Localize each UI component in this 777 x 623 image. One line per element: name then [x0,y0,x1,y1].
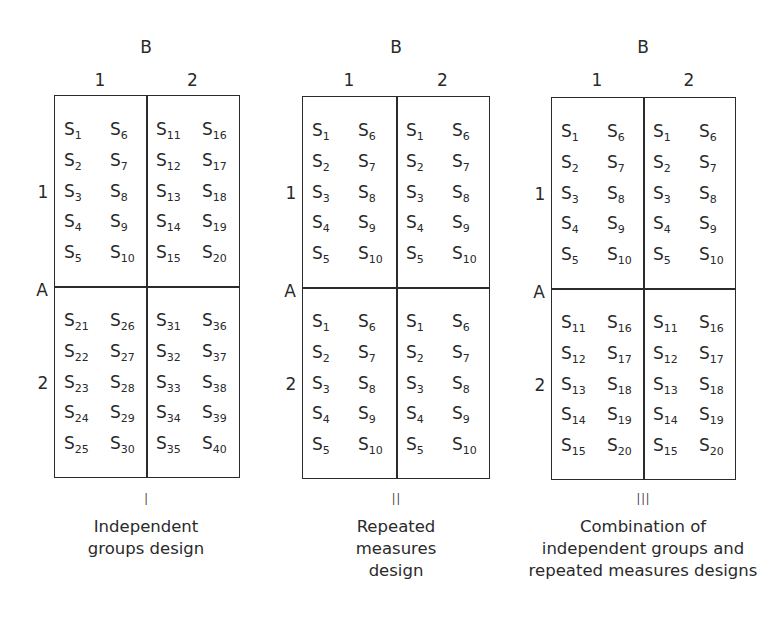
subject-entry: S6 [358,313,376,333]
subject-entry: S19 [202,213,227,233]
subject-entry: S9 [452,214,470,234]
subject-entry: S7 [607,154,625,174]
design-numeral: I [144,492,149,508]
factor-b-label: B [390,39,402,56]
subject-entry: S22 [64,343,89,363]
subject-entry: S17 [607,345,632,365]
subject-entry: S1 [561,123,579,143]
subject-entry: S6 [607,123,625,143]
row-divider [302,287,490,289]
subject-entry: S13 [561,376,586,396]
subject-entry: S11 [561,314,586,334]
subject-entry: S39 [202,404,227,424]
subject-entry: S15 [156,244,181,264]
subject-entry: S3 [561,185,579,205]
subject-entry: S10 [358,436,383,456]
subject-entry: S5 [64,244,82,264]
subject-entry: S24 [64,404,89,424]
subject-entry: S7 [358,153,376,173]
subject-entry: S7 [452,344,470,364]
subject-entry: S16 [607,314,632,334]
subject-entry: S14 [653,406,678,426]
subject-entry: S7 [699,154,717,174]
subject-entry: S19 [607,406,632,426]
subject-entry: S12 [156,152,181,172]
subject-entry: S3 [312,184,330,204]
subject-entry: S7 [358,344,376,364]
design-caption-line: groups design [88,538,205,560]
design-caption-line: Combination of [580,516,706,538]
factor-a-level-1: 1 [286,184,297,201]
subject-entry: S23 [64,374,89,394]
subject-entry: S1 [406,122,424,142]
subject-entry: S4 [406,214,424,234]
subject-entry: S6 [452,313,470,333]
subject-entry: S5 [312,436,330,456]
subject-entry: S13 [156,183,181,203]
subject-entry: S5 [406,245,424,265]
subject-entry: S33 [156,374,181,394]
subject-entry: S16 [699,314,724,334]
subject-entry: S36 [202,312,227,332]
subject-entry: S20 [607,437,632,457]
subject-entry: S8 [358,184,376,204]
subject-entry: S5 [653,246,671,266]
subject-entry: S3 [406,375,424,395]
factor-b-level-2: 2 [684,72,695,89]
factor-a-level-1: 1 [535,185,546,202]
subject-entry: S21 [64,312,89,332]
factor-a-level-2: 2 [38,374,49,391]
subject-entry: S12 [561,345,586,365]
subject-entry: S25 [64,435,89,455]
subject-entry: S6 [110,121,128,141]
subject-entry: S4 [64,213,82,233]
subject-entry: S30 [110,435,135,455]
subject-entry: S16 [202,121,227,141]
subject-entry: S1 [653,123,671,143]
subject-entry: S6 [358,122,376,142]
subject-entry: S10 [110,244,135,264]
subject-entry: S4 [312,405,330,425]
subject-entry: S2 [312,153,330,173]
subject-entry: S9 [110,213,128,233]
subject-entry: S6 [452,122,470,142]
subject-entry: S14 [561,406,586,426]
factor-b-label: B [140,39,152,56]
subject-entry: S17 [202,152,227,172]
subject-entry: S4 [653,215,671,235]
subject-entry: S7 [110,152,128,172]
subject-entry: S8 [699,185,717,205]
subject-entry: S1 [406,313,424,333]
subject-entry: S2 [64,152,82,172]
factor-a-level-1: 1 [38,183,49,200]
subject-entry: S10 [699,246,724,266]
subject-entry: S40 [202,435,227,455]
factor-a-level-2: 2 [535,376,546,393]
subject-entry: S3 [64,183,82,203]
design-caption-line: measures [356,538,437,560]
subject-entry: S18 [202,183,227,203]
subject-entry: S2 [561,154,579,174]
subject-entry: S27 [110,343,135,363]
subject-entry: S1 [312,313,330,333]
subject-entry: S17 [699,345,724,365]
subject-entry: S32 [156,343,181,363]
subject-entry: S8 [110,183,128,203]
subject-entry: S26 [110,312,135,332]
subject-entry: S18 [607,376,632,396]
subject-entry: S3 [653,185,671,205]
subject-entry: S11 [653,314,678,334]
factor-a-label: A [533,284,545,301]
subject-entry: S20 [202,244,227,264]
design-caption-line: repeated measures designs [529,560,758,582]
subject-entry: S1 [64,121,82,141]
subject-entry: S3 [312,375,330,395]
factor-b-label: B [637,39,649,56]
subject-entry: S13 [653,376,678,396]
subject-entry: S15 [561,437,586,457]
subject-entry: S28 [110,374,135,394]
subject-entry: S11 [156,121,181,141]
subject-entry: S7 [452,153,470,173]
subject-entry: S37 [202,343,227,363]
subject-entry: S9 [358,405,376,425]
